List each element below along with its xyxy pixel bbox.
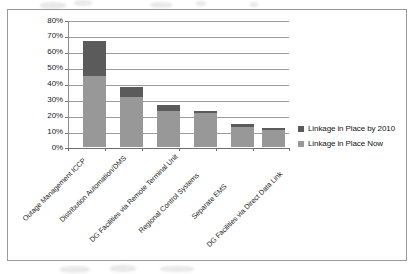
- x-axis-tick-marks: [68, 148, 290, 152]
- x-tick-label-dg-facilities-remote-terminal-unit: DG Facilities via Remote Terminal Unit: [88, 152, 180, 244]
- y-tick-label: 70%: [47, 32, 63, 40]
- y-tick-label: 60%: [47, 48, 63, 56]
- legend-label: Linkage in Place by 2010: [308, 124, 395, 133]
- bar-distribution-automation-dms[interactable]: [120, 87, 143, 147]
- y-tick-label: 0%: [52, 144, 63, 152]
- legend-swatch-icon: [298, 126, 304, 132]
- x-tick-label-regional-control-systems: Regional Control Systems: [137, 171, 201, 235]
- y-axis-labels: 80% 70% 60% 50% 40% 30% 20% 10% 0%: [30, 10, 63, 150]
- x-tick-label-dg-facilities-direct-data-link: DG Facilities via Direct Data Link: [205, 170, 284, 249]
- y-tick-label: 10%: [47, 128, 63, 136]
- gridline: [68, 37, 289, 38]
- legend-entry-now[interactable]: Linkage in Place Now: [298, 137, 408, 150]
- bar-regional-control-systems[interactable]: [194, 111, 217, 147]
- bar-outage-management-iccp[interactable]: [83, 41, 106, 147]
- y-tick-label: 40%: [47, 80, 63, 88]
- x-tick-label-separate-ems: Separate EMS: [190, 182, 229, 221]
- bar-separate-ems[interactable]: [231, 124, 254, 147]
- bar-segment-now: [120, 97, 143, 147]
- legend-entry-by-2010[interactable]: Linkage in Place by 2010: [298, 122, 408, 135]
- y-tick-label: 30%: [47, 96, 63, 104]
- bar-segment-now: [194, 113, 217, 147]
- y-tick-label: 80%: [47, 17, 63, 25]
- bar-segment-now: [157, 111, 180, 147]
- legend-label: Linkage in Place Now: [308, 139, 383, 148]
- chart-legend: Linkage in Place by 2010 Linkage in Plac…: [298, 122, 408, 152]
- y-tick-label: 50%: [47, 64, 63, 72]
- y-tick-label: 20%: [47, 112, 63, 120]
- bar-segment-now: [83, 76, 106, 147]
- bar-segment-by-2010: [120, 87, 143, 97]
- bar-segment-by-2010: [83, 41, 106, 76]
- bar-dg-facilities-via-direct-data-link[interactable]: [262, 128, 285, 147]
- bar-dg-facilities-via-remote-terminal-unit[interactable]: [157, 105, 180, 147]
- chart-frame: 80% 70% 60% 50% 40% 30% 20% 10% 0%: [7, 9, 407, 261]
- gridline: [68, 21, 289, 22]
- x-tick-label-distribution-automation-dms: Distribution Automation/DMS: [58, 154, 128, 224]
- x-tick-label-outage-management-iccp: Outage Management ICCP: [21, 156, 88, 223]
- plot-area: [68, 21, 289, 148]
- bar-segment-now: [231, 127, 254, 147]
- bar-segment-now: [262, 130, 285, 147]
- legend-swatch-icon: [298, 141, 304, 147]
